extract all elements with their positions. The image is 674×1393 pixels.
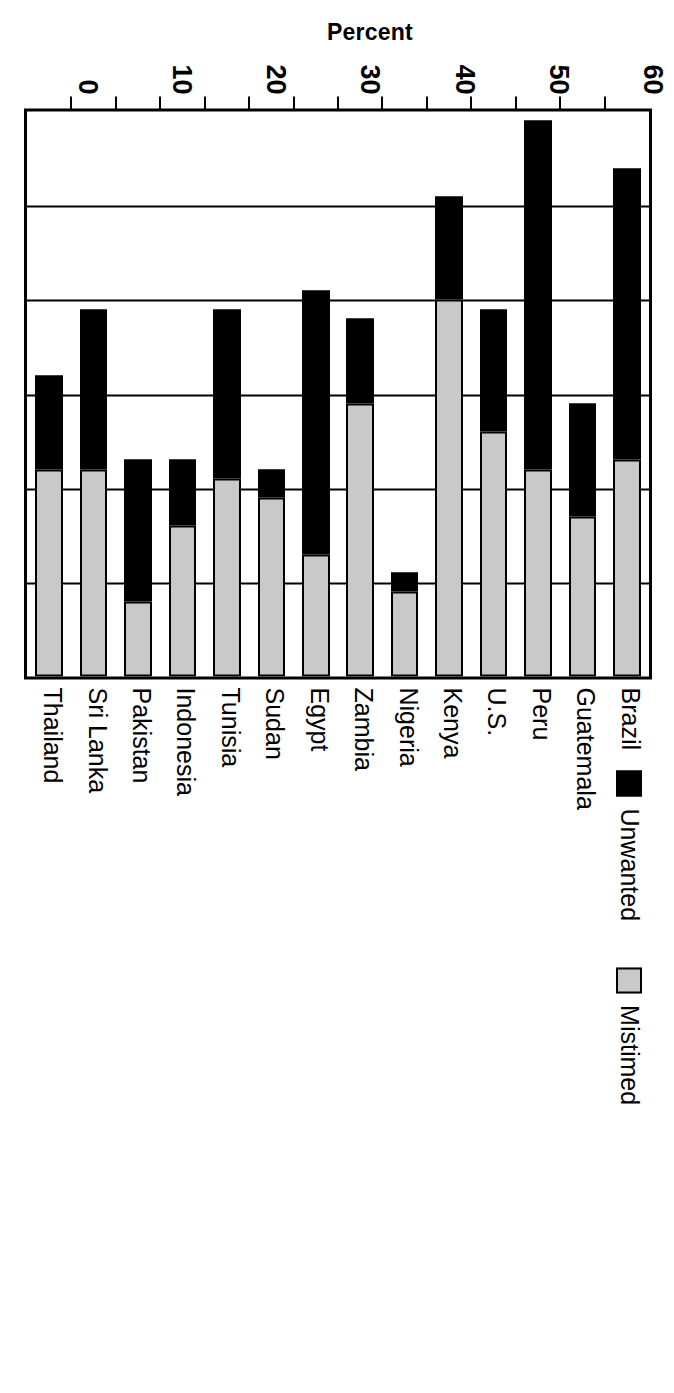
bar-segment-unwanted — [35, 375, 63, 469]
y-tick-30: 30 — [354, 64, 385, 94]
bar-group — [569, 111, 597, 676]
bar-segment-mistimed — [435, 299, 463, 676]
category-axis-labels: BrazilGuatemalaPeruU.S.KenyaNigeriaZambi… — [30, 687, 652, 807]
bar-segment-unwanted — [80, 309, 108, 469]
rotated-figure-container: Percent 0102030405060 BrazilGuatemalaPer… — [0, 0, 674, 1393]
legend-label-unwanted: Unwanted — [615, 808, 644, 921]
category-tick — [515, 96, 517, 109]
y-axis-tick-labels: 0102030405060 — [65, 44, 674, 98]
bar-segment-unwanted — [391, 572, 419, 591]
category-label-egypt: Egypt — [304, 687, 333, 751]
y-tick-10: 10 — [166, 64, 197, 94]
bar-segment-unwanted — [124, 459, 152, 600]
gridline-30 — [27, 394, 649, 396]
category-tick — [248, 96, 250, 109]
bar-segment-mistimed — [302, 554, 330, 676]
category-label-zambia: Zambia — [349, 687, 378, 770]
legend-label-mistimed: Mistimed — [615, 1005, 644, 1105]
bar-segment-mistimed — [346, 403, 374, 676]
category-label-tunisia: Tunisia — [215, 687, 244, 767]
bar-segment-mistimed — [213, 478, 241, 676]
y-tick-40: 40 — [448, 64, 479, 94]
category-tick — [115, 96, 117, 109]
category-label-u-s: U.S. — [482, 687, 511, 736]
gridline-50 — [27, 205, 649, 207]
gridline-10 — [27, 582, 649, 584]
bar-segment-mistimed — [169, 525, 197, 676]
category-label-sri-lanka: Sri Lanka — [82, 687, 111, 793]
category-tick — [159, 96, 161, 109]
bar-group — [524, 111, 552, 676]
y-tick-50: 50 — [542, 64, 573, 94]
bar-segment-unwanted — [569, 403, 597, 516]
bar-group — [35, 111, 63, 676]
bar-group — [258, 111, 286, 676]
bar-segment-mistimed — [35, 469, 63, 676]
bar-segment-unwanted — [346, 318, 374, 403]
bar-segment-unwanted — [524, 120, 552, 468]
category-label-nigeria: Nigeria — [393, 687, 422, 766]
category-label-kenya: Kenya — [438, 687, 467, 758]
category-label-thailand: Thailand — [38, 687, 67, 783]
bar-segment-unwanted — [169, 459, 197, 525]
unwanted-swatch-icon — [617, 770, 643, 796]
category-label-sudan: Sudan — [260, 687, 289, 759]
y-axis-title: Percent — [65, 18, 674, 45]
category-label-pakistan: Pakistan — [127, 687, 156, 783]
y-tick-20: 20 — [260, 64, 291, 94]
y-tick-0: 0 — [72, 79, 103, 94]
bar-group — [435, 111, 463, 676]
bar-group — [346, 111, 374, 676]
plot-area — [24, 108, 652, 679]
chart-page: Percent 0102030405060 BrazilGuatemalaPer… — [0, 0, 674, 1393]
bar-group — [480, 111, 508, 676]
category-tick — [470, 96, 472, 109]
y-tick-60: 60 — [637, 64, 668, 94]
bar-segment-unwanted — [480, 309, 508, 431]
category-label-guatemala: Guatemala — [571, 687, 600, 809]
bar-segment-mistimed — [480, 431, 508, 676]
legend-item-unwanted: Unwanted — [615, 770, 644, 921]
bar-segment-unwanted — [435, 196, 463, 300]
gridline-40 — [27, 299, 649, 301]
bar-segment-mistimed — [524, 469, 552, 676]
category-tick — [70, 96, 72, 109]
mistimed-swatch-icon — [617, 967, 643, 993]
bar-segment-mistimed — [613, 459, 641, 676]
bar-group — [213, 111, 241, 676]
bar-group — [169, 111, 197, 676]
bar-segment-unwanted — [258, 469, 286, 497]
bar-segment-mistimed — [391, 591, 419, 676]
bar-segment-mistimed — [569, 516, 597, 676]
category-label-peru: Peru — [526, 687, 555, 740]
bar-group — [80, 111, 108, 676]
bar-group — [124, 111, 152, 676]
category-tick — [426, 96, 428, 109]
gridline-20 — [27, 488, 649, 490]
category-tick — [559, 96, 561, 109]
bar-segment-unwanted — [213, 309, 241, 479]
legend: Unwanted Mistimed — [615, 770, 644, 1105]
category-label-indonesia: Indonesia — [171, 687, 200, 795]
bar-segment-unwanted — [302, 290, 330, 554]
bar-group — [613, 111, 641, 676]
legend-item-mistimed: Mistimed — [615, 967, 644, 1105]
bar-segment-mistimed — [258, 497, 286, 676]
category-tick — [204, 96, 206, 109]
category-tick — [337, 96, 339, 109]
bar-segment-mistimed — [124, 601, 152, 676]
category-tick — [293, 96, 295, 109]
category-tick — [604, 96, 606, 109]
bar-group — [302, 111, 330, 676]
bar-group — [391, 111, 419, 676]
category-tick — [381, 96, 383, 109]
bar-segment-unwanted — [613, 168, 641, 460]
bar-segment-mistimed — [80, 469, 108, 676]
stacked-bar-chart: Percent 0102030405060 BrazilGuatemalaPer… — [0, 0, 674, 1393]
category-label-brazil: Brazil — [615, 687, 644, 750]
